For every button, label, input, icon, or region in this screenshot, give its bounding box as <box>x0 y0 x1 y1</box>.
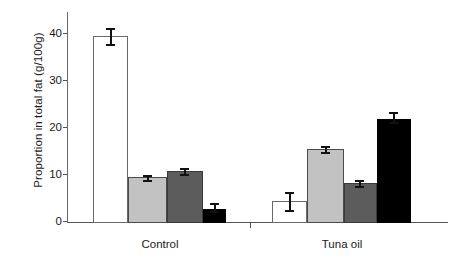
errorbar-tuna-oil-series-1 <box>289 192 291 211</box>
x-axis-mid-tick <box>250 223 251 228</box>
y-tick-label-40: 40 <box>36 28 62 40</box>
y-axis-line <box>67 12 68 223</box>
errorcap-top-tuna-oil-series-3 <box>355 180 364 182</box>
y-tick-label-0: 0 <box>36 216 62 228</box>
errorcap-bottom-tuna-oil-series-1 <box>285 210 294 212</box>
bar-control-series-1 <box>93 36 128 223</box>
x-axis-group-label-tuna-oil: Tuna oil <box>300 238 384 250</box>
errorcap-top-tuna-oil-series-1 <box>285 192 294 194</box>
errorcap-bottom-control-series-3 <box>180 174 189 176</box>
errorcap-top-control-series-4 <box>210 203 219 205</box>
errorcap-top-control-series-3 <box>180 168 189 170</box>
bar-control-series-3 <box>167 171 203 223</box>
errorcap-top-control-series-1 <box>106 28 115 30</box>
y-tick-label-20: 20 <box>36 122 62 134</box>
bar-control-series-2 <box>128 177 167 223</box>
errorcap-bottom-tuna-oil-series-3 <box>355 186 364 188</box>
y-tick-label-30: 30 <box>36 75 62 87</box>
bar-chart-figure: Proportion in total fat (g/100g) 40 30 2… <box>0 0 459 273</box>
errorcap-top-tuna-oil-series-2 <box>321 146 330 148</box>
bar-tuna-oil-series-3 <box>344 183 377 223</box>
errorcap-bottom-control-series-2 <box>143 180 152 182</box>
errorcap-bottom-control-series-1 <box>106 44 115 46</box>
bar-tuna-oil-series-4 <box>377 119 411 223</box>
bar-tuna-oil-series-2 <box>307 149 344 223</box>
x-axis-group-label-control: Control <box>120 238 200 250</box>
errorcap-bottom-control-series-4 <box>210 211 219 213</box>
y-tick-label-10: 10 <box>36 169 62 181</box>
errorbar-control-series-1 <box>110 28 112 45</box>
errorcap-bottom-tuna-oil-series-4 <box>389 122 398 124</box>
errorcap-top-control-series-2 <box>143 175 152 177</box>
y-axis-tick-labels: 40 30 20 10 0 <box>32 0 62 273</box>
errorcap-bottom-tuna-oil-series-2 <box>321 152 330 154</box>
errorcap-top-tuna-oil-series-4 <box>389 112 398 114</box>
